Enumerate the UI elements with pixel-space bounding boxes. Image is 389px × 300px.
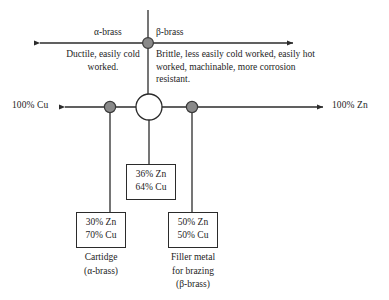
composition-box-30zn: 30% Zn 70% Cu <box>76 212 126 248</box>
axis-label-zinc: 100% Zn <box>332 100 368 111</box>
beta-brass-description: Brittle, less easily cold worked, easily… <box>156 48 324 86</box>
composition-box-36zn: 36% Zn 64% Cu <box>126 164 176 200</box>
beta-brass-heading: β-brass <box>156 27 184 38</box>
cartidge-node <box>104 101 115 112</box>
composition-box-50zn: 50% Zn 50% Cu <box>168 212 218 248</box>
axis-label-copper: 100% Cu <box>12 100 48 111</box>
center-node <box>136 94 162 120</box>
caption-cartidge: Cartidge (α-brass) <box>66 251 136 278</box>
composition-zinc-value: 30% Zn <box>77 216 125 229</box>
alpha-brass-heading: α-brass <box>94 27 122 38</box>
alpha-beta-boundary-node <box>143 38 154 49</box>
composition-copper-value: 64% Cu <box>127 181 175 194</box>
composition-zinc-value: 50% Zn <box>169 216 217 229</box>
composition-zinc-value: 36% Zn <box>127 168 175 181</box>
caption-filler-metal: Filler metal for brazing (β-brass) <box>158 251 228 292</box>
composition-copper-value: 70% Cu <box>77 229 125 242</box>
filler-node <box>186 101 197 112</box>
composition-copper-value: 50% Cu <box>169 229 217 242</box>
alpha-brass-description: Ductile, easily cold worked. <box>62 48 144 73</box>
